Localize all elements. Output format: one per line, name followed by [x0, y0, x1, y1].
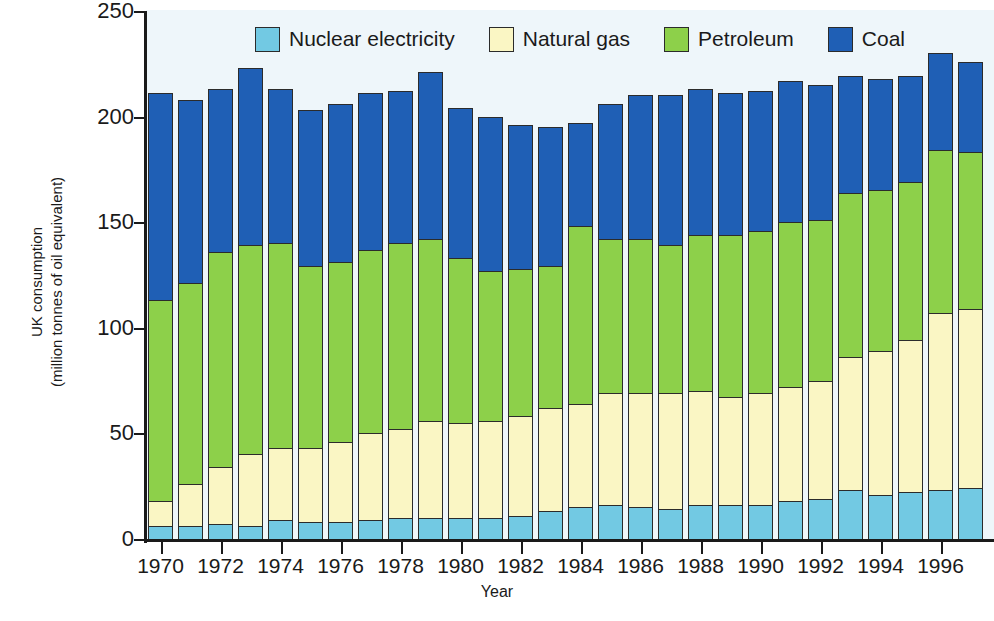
- bar-segment: [358, 520, 383, 541]
- bar-segment: [718, 505, 743, 541]
- bar-stack[interactable]: [418, 72, 443, 541]
- bar-stack[interactable]: [358, 93, 383, 541]
- bar-stack[interactable]: [298, 110, 323, 541]
- y-axis-tick: [134, 539, 145, 541]
- bar-segment: [238, 454, 263, 526]
- bar-stack[interactable]: [928, 53, 953, 541]
- bar-segment: [778, 222, 803, 387]
- x-axis-tick: [701, 541, 703, 554]
- bar-segment: [448, 258, 473, 423]
- bar-stack[interactable]: [448, 108, 473, 541]
- bar-segment: [328, 262, 353, 442]
- bar-stack[interactable]: [148, 93, 173, 541]
- bar-segment: [388, 518, 413, 541]
- y-axis-tick-label: 200: [80, 104, 134, 130]
- bar-segment: [808, 499, 833, 541]
- bar-stack[interactable]: [238, 68, 263, 541]
- bar-stack[interactable]: [688, 89, 713, 541]
- x-axis-tick: [161, 541, 163, 554]
- bar-segment: [298, 266, 323, 448]
- bar-stack[interactable]: [268, 89, 293, 541]
- bar-segment: [778, 81, 803, 223]
- bar-segment: [898, 340, 923, 492]
- bar-segment: [868, 190, 893, 351]
- x-axis-tick: [401, 541, 403, 554]
- bar-segment: [688, 391, 713, 505]
- bar-segment: [478, 271, 503, 421]
- bar-segment: [718, 235, 743, 398]
- bar-stack[interactable]: [538, 127, 563, 541]
- bar-segment: [568, 123, 593, 226]
- x-axis-tick: [821, 541, 823, 554]
- x-axis-tick: [341, 541, 343, 554]
- bar-segment: [718, 397, 743, 505]
- y-axis-tick-label: 150: [80, 209, 134, 235]
- y-axis-line: [144, 11, 147, 543]
- y-axis-tick: [134, 328, 145, 330]
- bar-stack[interactable]: [208, 89, 233, 541]
- bar-segment: [448, 108, 473, 258]
- bar-stack[interactable]: [748, 91, 773, 541]
- y-axis-tick-label: 100: [80, 315, 134, 341]
- bar-stack[interactable]: [658, 95, 683, 541]
- bar-segment: [328, 442, 353, 522]
- bar-segment: [718, 93, 743, 235]
- bar-segment: [658, 393, 683, 509]
- bar-segment: [598, 104, 623, 239]
- bar-stack[interactable]: [898, 76, 923, 541]
- bar-stack[interactable]: [958, 62, 983, 541]
- bar-segment: [268, 89, 293, 243]
- x-axis-tick-label: 1996: [906, 554, 976, 578]
- bar-segment: [778, 501, 803, 541]
- bar-stack[interactable]: [328, 104, 353, 541]
- bar-segment: [688, 89, 713, 235]
- bar-segment: [808, 85, 833, 220]
- bar-segment: [148, 501, 173, 526]
- chart-container: Nuclear electricityNatural gasPetroleumC…: [0, 0, 994, 621]
- bar-stack[interactable]: [478, 117, 503, 541]
- bar-segment: [658, 509, 683, 541]
- bar-segment: [928, 150, 953, 313]
- bar-stack[interactable]: [838, 76, 863, 541]
- bar-segment: [358, 250, 383, 434]
- bar-stack[interactable]: [628, 95, 653, 541]
- bar-stack[interactable]: [808, 85, 833, 541]
- bar-segment: [268, 520, 293, 541]
- bar-segment: [388, 429, 413, 518]
- bar-segment: [628, 95, 653, 239]
- bar-stack[interactable]: [718, 93, 743, 541]
- bar-segment: [778, 387, 803, 501]
- y-axis-tick: [134, 11, 145, 13]
- bar-segment: [208, 467, 233, 524]
- bar-segment: [958, 62, 983, 153]
- bar-stack[interactable]: [388, 91, 413, 541]
- x-axis-tick: [581, 541, 583, 554]
- bar-segment: [568, 507, 593, 541]
- bar-segment: [478, 518, 503, 541]
- bar-segment: [688, 235, 713, 391]
- bar-stack[interactable]: [598, 104, 623, 541]
- bar-segment: [868, 495, 893, 541]
- bar-segment: [208, 252, 233, 467]
- bar-segment: [838, 490, 863, 541]
- bar-stack[interactable]: [178, 100, 203, 541]
- bar-segment: [178, 283, 203, 484]
- bar-stack[interactable]: [568, 123, 593, 541]
- bar-segment: [898, 76, 923, 182]
- x-axis-tick: [461, 541, 463, 554]
- bar-stack[interactable]: [868, 79, 893, 541]
- bar-segment: [628, 393, 653, 507]
- y-axis-title-line1: UK consumption: [27, 72, 47, 492]
- bar-segment: [358, 433, 383, 520]
- bar-segment: [658, 95, 683, 245]
- bar-segment: [568, 226, 593, 403]
- bar-segment: [388, 91, 413, 243]
- bar-stack[interactable]: [778, 81, 803, 541]
- bar-series-area: [146, 10, 994, 541]
- bar-stack[interactable]: [508, 125, 533, 541]
- x-axis-tick: [641, 541, 643, 554]
- bar-segment: [538, 511, 563, 541]
- bar-segment: [628, 507, 653, 541]
- bar-segment: [838, 193, 863, 358]
- x-axis-title: Year: [0, 583, 994, 601]
